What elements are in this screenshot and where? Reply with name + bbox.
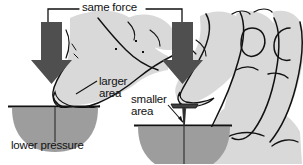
pressure-diagram: same force larger area smaller area lowe… xyxy=(0,0,303,164)
left-hand-dot-b xyxy=(135,40,137,42)
thumbtack-head xyxy=(171,104,198,108)
left-hand-dot-c xyxy=(142,51,144,53)
label-larger-area: larger area xyxy=(99,76,127,99)
right-dome-group xyxy=(134,126,232,165)
label-same-force: same force xyxy=(82,2,137,14)
right-hand-crease-d xyxy=(254,9,272,12)
thumbtack-group xyxy=(171,104,198,126)
left-hand-crease-a xyxy=(66,30,69,58)
label-lower-pressure: lower pressure xyxy=(11,140,84,152)
left-hand-dot-a xyxy=(115,48,117,50)
label-smaller-area: smaller area xyxy=(131,94,167,117)
